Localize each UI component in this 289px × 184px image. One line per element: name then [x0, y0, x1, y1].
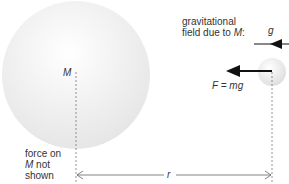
- distance-label: r: [167, 169, 170, 180]
- note-line1: force on: [25, 148, 61, 159]
- field-arrow-icon: [254, 39, 289, 49]
- field-label-colon: :: [242, 27, 245, 38]
- note-line2: M not: [25, 159, 61, 170]
- large-mass-sphere: [2, 1, 150, 149]
- field-label-line2: field due to M:: [182, 27, 245, 38]
- field-symbol: g: [268, 25, 274, 36]
- note-force-on-M: force on M not shown: [25, 148, 61, 181]
- distance-arrow: [77, 171, 271, 179]
- note-line3: shown: [25, 170, 61, 181]
- field-label-var: M: [234, 27, 242, 38]
- force-label: F = mg: [212, 80, 243, 91]
- field-label-line1: gravitational: [182, 16, 245, 27]
- large-mass-label: M: [63, 67, 71, 78]
- field-label-text: field due to: [182, 27, 234, 38]
- field-label: gravitational field due to M:: [182, 16, 245, 38]
- note-suffix: not: [33, 159, 50, 170]
